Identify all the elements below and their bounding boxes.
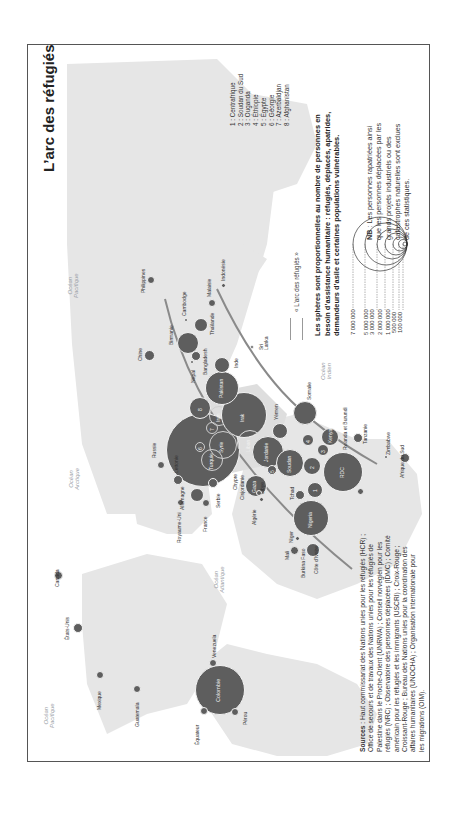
label-philippines: Philippines bbox=[141, 269, 146, 293]
sphere-malaisie[interactable] bbox=[208, 299, 216, 307]
sphere-zimbabwe[interactable] bbox=[384, 455, 388, 459]
legend-item-7: 7 : Azerbaïdjan bbox=[275, 74, 283, 126]
sources-note: Sources : Haut commissariat des Nations … bbox=[359, 534, 426, 752]
sphere-france[interactable] bbox=[202, 499, 210, 507]
ocean-pacific-west: Océan Pacifique bbox=[43, 703, 55, 728]
sphere-russie[interactable] bbox=[157, 461, 165, 469]
label-num-6: 6 bbox=[198, 447, 203, 450]
sphere-equateur[interactable] bbox=[200, 707, 208, 715]
label-venezuela: Venezuela bbox=[212, 635, 217, 658]
arc-legend-swatch-line-1 bbox=[290, 318, 291, 340]
label-gaza: Gaza bbox=[252, 481, 257, 493]
legend-item-3: 3 : Ouganda bbox=[244, 74, 252, 126]
sphere-chine[interactable] bbox=[144, 350, 155, 361]
label-rwanda-burundi: Rwanda et Burundi bbox=[343, 407, 348, 450]
arc-legend-swatch-line-2 bbox=[302, 318, 303, 340]
label-num-7: 7 bbox=[210, 428, 215, 431]
arc-legend-label: « L’arc des réfugiés » bbox=[293, 252, 300, 312]
sphere-serbie[interactable] bbox=[208, 478, 218, 488]
sphere-philippines[interactable] bbox=[147, 276, 155, 284]
sources-line: Palestine dans le Proche-Orient (UNRWA) … bbox=[376, 534, 384, 752]
label-serbie: Serbie bbox=[216, 494, 221, 508]
scale-label-3m: 3 000 000 bbox=[369, 309, 375, 335]
sphere-mexique[interactable] bbox=[96, 671, 104, 679]
sphere-guatemala[interactable] bbox=[133, 685, 141, 693]
legend-item-2: 2 : Soudan du Sud bbox=[237, 74, 245, 126]
nb-line: de ces statistiques. bbox=[402, 123, 411, 240]
label-burkina-faso: Burkina Faso bbox=[301, 549, 306, 578]
legend-item-8: 8 : Afghanistan bbox=[283, 74, 291, 126]
sources-line: réfugiés (NRC) ; Observatoire des person… bbox=[384, 534, 392, 752]
label-irak: Irak bbox=[240, 414, 245, 422]
label-malaisie: Malaisie bbox=[207, 279, 212, 297]
sphere-mali[interactable] bbox=[290, 546, 299, 555]
label-cote-ivoire: Côte d’Ivoire bbox=[314, 546, 319, 574]
sphere-birmanie[interactable] bbox=[177, 332, 199, 354]
label-allemagne: Allemagne bbox=[180, 486, 185, 510]
label-chine: Chine bbox=[138, 348, 143, 361]
legend-item-5: 5 : Égypte bbox=[260, 74, 268, 126]
sphere-venezuela[interactable] bbox=[209, 659, 217, 667]
sphere-libye[interactable] bbox=[259, 497, 264, 502]
nb-line: grands projets industriels ou des bbox=[384, 123, 393, 240]
label-niger: Niger bbox=[289, 531, 294, 543]
label-tchad: Tchad bbox=[290, 487, 295, 500]
sphere-sri-lanka[interactable] bbox=[250, 345, 254, 349]
sphere-cambodge[interactable] bbox=[184, 318, 188, 322]
legend-item-6: 6 : Géorgie bbox=[268, 74, 276, 126]
label-chypre: Chypre bbox=[233, 474, 238, 490]
label-birmanie: Birmanie bbox=[169, 325, 174, 345]
sphere-yemen[interactable] bbox=[272, 423, 288, 439]
label-zimbabwe: Zimbabwe bbox=[386, 432, 391, 455]
nb-line: : Les personnes rapatriées ainsi bbox=[365, 126, 374, 230]
label-soudan: Soudan bbox=[287, 456, 292, 473]
spheres-note-line: demandeurs d’asile et certaines populati… bbox=[332, 112, 342, 336]
label-num-4: 4 bbox=[306, 440, 311, 443]
label-tanzanie: Tanzanie bbox=[363, 424, 368, 444]
label-sri-lanka: Sri Lanka bbox=[259, 338, 269, 350]
label-afrique-du-sud: Afrique du Sud bbox=[400, 445, 405, 478]
label-canada: Canada bbox=[55, 569, 60, 587]
sources-line: : Haut commissariat des Nations unies po… bbox=[359, 534, 366, 726]
nb-label: NB bbox=[365, 230, 374, 240]
label-jordanie: Jordanie bbox=[264, 443, 269, 462]
sources-line: les migrations (OIM). bbox=[418, 534, 426, 752]
spheres-note-line: Les sphères sont proportionnelles au nom… bbox=[313, 112, 323, 336]
sphere-thailande[interactable] bbox=[194, 318, 208, 332]
sphere-niger[interactable] bbox=[295, 536, 300, 541]
ocean-indian: Océan Indien bbox=[320, 362, 332, 380]
sphere-libye-dot[interactable] bbox=[357, 488, 364, 495]
label-cisjordanie: Cisjordanie bbox=[240, 475, 245, 500]
label-liban: Liban bbox=[246, 440, 251, 452]
sphere-somalie[interactable] bbox=[293, 401, 317, 425]
sphere-inde[interactable] bbox=[214, 357, 230, 373]
label-inde: Inde bbox=[234, 358, 239, 368]
sphere-tchad[interactable] bbox=[295, 490, 305, 500]
sphere-lettonie[interactable] bbox=[173, 475, 183, 485]
scale-label-100k: 100 000 bbox=[397, 312, 403, 333]
label-yemen: Yémen bbox=[274, 404, 279, 420]
label-bangladesh: Bangladesh bbox=[203, 349, 208, 375]
label-num-3: 3 bbox=[321, 450, 326, 453]
label-iran: Iran bbox=[216, 413, 221, 422]
ocean-atlantic: Océan Atlantique bbox=[213, 566, 225, 593]
label-thailande: Thaïlande bbox=[210, 313, 215, 335]
label-rdc: RDC bbox=[340, 467, 345, 478]
label-mali: Mali bbox=[285, 551, 290, 560]
sources-line: Office de secours et de travaux des Nati… bbox=[367, 534, 375, 752]
sphere-etats-unis[interactable] bbox=[73, 623, 83, 633]
nb-line: que les personnes déplacées par les bbox=[374, 123, 383, 240]
label-equateur: Équateur bbox=[195, 725, 200, 745]
sources-label: Sources bbox=[359, 726, 366, 752]
label-etats-unis: États-Unis bbox=[65, 617, 70, 640]
nb-line: catastrophes naturelles sont exclues bbox=[393, 123, 402, 240]
label-indonesie: Indonésie bbox=[221, 259, 226, 281]
label-russie: Russie bbox=[152, 443, 157, 458]
sources-line: américain pour les réfugiés et les immig… bbox=[393, 534, 401, 752]
label-algerie: Algérie bbox=[252, 509, 257, 525]
nb-note: NB : Les personnes rapatriées ainsi que … bbox=[365, 123, 411, 240]
label-cambodge: Cambodge bbox=[182, 292, 187, 316]
sphere-perou[interactable] bbox=[231, 708, 239, 716]
label-libye: Libye bbox=[260, 482, 265, 494]
sphere-indonesie[interactable] bbox=[221, 283, 226, 288]
